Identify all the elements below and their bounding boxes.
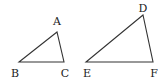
triangle-def — [86, 15, 153, 62]
label-f: F — [150, 67, 158, 80]
label-d: D — [139, 2, 148, 15]
triangle-abc — [19, 32, 64, 62]
diagram-canvas: A B C D E F — [0, 0, 163, 82]
label-a: A — [52, 15, 62, 28]
label-e: E — [83, 67, 91, 80]
label-c: C — [61, 67, 69, 80]
label-b: B — [11, 67, 19, 80]
